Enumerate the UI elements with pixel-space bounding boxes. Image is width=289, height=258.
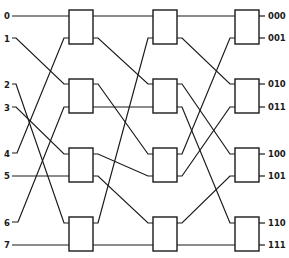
stage2-to-stage3-wires	[177, 16, 235, 245]
stage-3-switches	[235, 10, 259, 251]
wire-s2-1b	[177, 38, 235, 84]
output-label-111: 111	[268, 240, 286, 250]
output-label-010: 010	[268, 79, 286, 89]
output-label-100: 100	[268, 149, 286, 159]
wire-s2-2b	[177, 107, 235, 223]
output-label-011: 011	[268, 102, 286, 112]
wire-s1-2t	[93, 84, 153, 154]
output-label-000: 000	[268, 11, 286, 21]
switch-s2-2	[153, 79, 177, 113]
switch-s3-1	[235, 10, 259, 44]
switch-s1-3	[69, 148, 93, 182]
input-label-4: 4	[4, 149, 10, 159]
wire-in2	[12, 84, 69, 223]
output-label-101: 101	[268, 171, 286, 181]
switch-s3-4	[235, 217, 259, 251]
output-label-110: 110	[268, 218, 286, 228]
switch-s1-4	[69, 217, 93, 251]
wire-s1-4t	[93, 38, 153, 223]
input-label-0: 0	[4, 11, 10, 21]
input-wires	[12, 16, 69, 245]
switch-s2-4	[153, 217, 177, 251]
switch-s2-3	[153, 148, 177, 182]
switching-network-diagram: 0 1 2 3 4 5 6 7	[0, 0, 289, 258]
wire-in1	[12, 38, 69, 84]
wire-s1-3b	[93, 176, 153, 223]
input-label-1: 1	[4, 34, 10, 44]
wire-s2-3t	[177, 38, 235, 154]
switch-s2-1	[153, 10, 177, 44]
wire-s1-1b	[93, 38, 153, 84]
input-label-7: 7	[4, 240, 10, 250]
output-wires	[259, 16, 265, 245]
switch-s3-2	[235, 79, 259, 113]
wire-in6	[12, 107, 69, 222]
output-label-001: 001	[268, 33, 286, 43]
input-labels: 0 1 2 3 4 5 6 7	[4, 11, 10, 250]
input-label-6: 6	[4, 218, 10, 228]
switch-s3-3	[235, 148, 259, 182]
input-label-5: 5	[4, 171, 10, 181]
output-labels: 000 001 010 011 100 101 110 111	[268, 11, 286, 250]
wire-s2-4t	[177, 176, 235, 223]
switch-s1-2	[69, 79, 93, 113]
stage-1-switches	[69, 10, 93, 251]
stage-2-switches	[153, 10, 177, 251]
stage1-to-stage2-wires	[93, 16, 153, 245]
wire-s1-3t	[93, 154, 153, 176]
input-label-3: 3	[4, 103, 10, 113]
input-label-2: 2	[4, 80, 10, 90]
wire-in3	[12, 107, 69, 154]
switch-s1-1	[69, 10, 93, 44]
